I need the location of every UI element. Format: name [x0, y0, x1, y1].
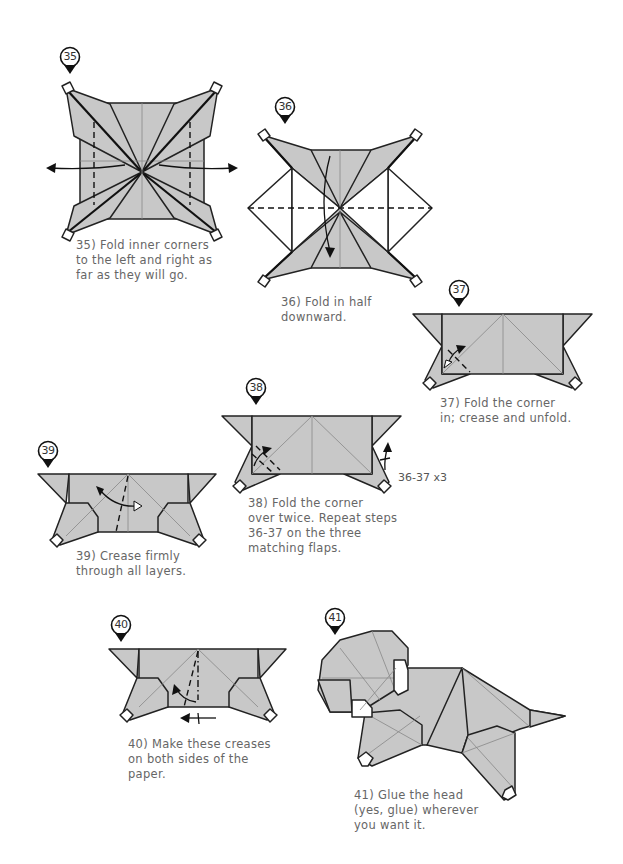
diagram-41-finished-model — [0, 0, 623, 864]
step-41: 41 41) Glue the head (yes, glue) whereve… — [0, 0, 623, 864]
caption-line: (yes, glue) wherever — [354, 803, 479, 818]
caption-41: 41) Glue the head (yes, glue) wherever y… — [354, 788, 479, 833]
caption-line: you want it. — [354, 818, 479, 833]
caption-line: 41) Glue the head — [354, 788, 479, 803]
